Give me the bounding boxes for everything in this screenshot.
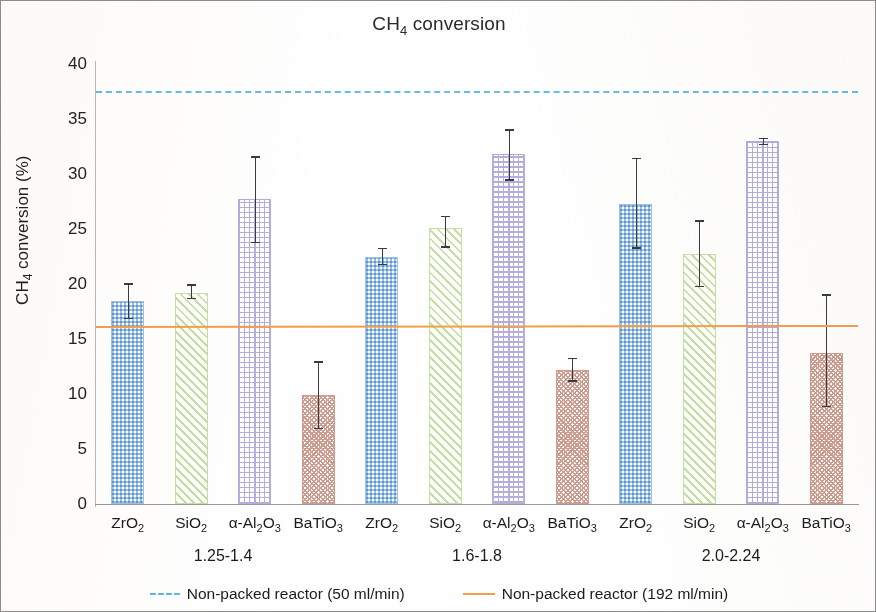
error-cap-top (822, 294, 831, 296)
legend-item-1[interactable]: Non-packed reactor (50 ml/min) (150, 585, 405, 603)
legend-label: Non-packed reactor (192 ml/min) (502, 585, 729, 603)
x-tick-label-SiO2-g3: SiO2 (668, 509, 732, 539)
error-cap-top (505, 129, 514, 131)
error-cap-top (187, 284, 196, 286)
chart-title: CH4 conversion (1, 13, 876, 38)
group-label-2: 1.6-1.8 (350, 544, 604, 570)
x-tick-label-ZrO2-g3: ZrO2 (604, 509, 668, 539)
y-tick-15: 15 (43, 329, 87, 349)
bar-SiO2-g2 (429, 228, 462, 504)
bar-a-Al2O3-g1 (238, 199, 271, 504)
error-cap-bottom (124, 318, 133, 320)
x-tick-label-BaTiO3-g2: BaTiO3 (541, 509, 605, 539)
error-cap-bottom (632, 247, 641, 249)
y-tick-35: 35 (43, 109, 87, 129)
error-bar-ZrO2-g1 (128, 283, 129, 319)
error-bar-a-Al2O3-g1 (255, 156, 256, 243)
y-tick-0: 0 (43, 494, 87, 514)
error-cap-top (124, 283, 133, 285)
error-cap-bottom (378, 264, 387, 266)
error-cap-top (695, 220, 704, 222)
error-bar-ZrO2-g2 (382, 248, 383, 266)
error-bar-ZrO2-g3 (636, 158, 637, 249)
y-tick-20: 20 (43, 274, 87, 294)
bar-SiO2-g1 (175, 293, 208, 504)
x-tick-label-a-Al2O3-g2: α-Al2O3 (477, 509, 541, 539)
y-tick-25: 25 (43, 219, 87, 239)
y-tick-5: 5 (43, 439, 87, 459)
legend-item-2[interactable]: Non-packed reactor (192 ml/min) (463, 585, 729, 603)
legend-swatch-dashed-icon (150, 593, 180, 595)
error-bar-BaTiO3-g1 (318, 361, 319, 429)
error-cap-top (568, 358, 577, 360)
error-cap-bottom (314, 428, 323, 430)
legend-swatch-solid-icon (463, 593, 495, 596)
error-bar-SiO2-g1 (191, 284, 192, 299)
error-cap-top (251, 156, 260, 158)
chart-legend: Non-packed reactor (50 ml/min)Non-packed… (1, 579, 876, 609)
error-cap-bottom (568, 380, 577, 382)
error-cap-bottom (822, 406, 831, 408)
x-tick-label-SiO2-g1: SiO2 (160, 509, 224, 539)
x-tick-label-a-Al2O3-g1: α-Al2O3 (223, 509, 287, 539)
error-cap-bottom (187, 298, 196, 300)
y-tick-40: 40 (43, 54, 87, 74)
error-cap-bottom (759, 144, 768, 146)
bar-SiO2-g3 (683, 254, 716, 504)
error-cap-top (314, 361, 323, 363)
group-label-1: 1.25-1.4 (96, 544, 350, 570)
x-axis-group-labels: 1.25-1.41.6-1.82.0-2.24 (96, 544, 858, 570)
y-axis-tick-labels: 4035302520151050 (39, 64, 87, 504)
reference-line-dashed (96, 91, 858, 93)
error-bar-a-Al2O3-g2 (509, 129, 510, 181)
x-tick-label-a-Al2O3-g3: α-Al2O3 (731, 509, 795, 539)
legend-label: Non-packed reactor (50 ml/min) (187, 585, 405, 603)
error-cap-top (441, 216, 450, 218)
x-tick-label-ZrO2-g2: ZrO2 (350, 509, 414, 539)
x-tick-label-BaTiO3-g1: BaTiO3 (287, 509, 351, 539)
bar-ZrO2-g1 (111, 301, 144, 505)
error-bar-SiO2-g3 (699, 220, 700, 287)
bar-a-Al2O3-g3 (746, 141, 779, 504)
error-cap-bottom (441, 246, 450, 248)
error-cap-bottom (251, 242, 260, 244)
x-tick-label-BaTiO3-g3: BaTiO3 (795, 509, 859, 539)
chart-figure: CH4 conversion 4035302520151050 CH4 conv… (0, 0, 876, 612)
error-bar-BaTiO3-g3 (826, 294, 827, 407)
group-label-3: 2.0-2.24 (604, 544, 858, 570)
error-cap-bottom (695, 286, 704, 288)
error-cap-top (632, 158, 641, 160)
bar-ZrO2-g2 (365, 257, 398, 505)
reference-line-solid (96, 325, 858, 328)
y-tick-30: 30 (43, 164, 87, 184)
error-bar-a-Al2O3-g3 (763, 138, 764, 146)
y-tick-10: 10 (43, 384, 87, 404)
x-tick-label-SiO2-g2: SiO2 (414, 509, 478, 539)
error-bar-SiO2-g2 (445, 216, 446, 248)
plot-area (96, 64, 858, 504)
x-axis-category-labels: ZrO2SiO2α-Al2O3BaTiO3ZrO2SiO2α-Al2O3BaTi… (96, 509, 858, 539)
error-cap-bottom (505, 179, 514, 181)
error-bar-BaTiO3-g2 (572, 358, 573, 382)
x-tick-label-ZrO2-g1: ZrO2 (96, 509, 160, 539)
error-cap-top (378, 248, 387, 250)
bar-a-Al2O3-g2 (492, 154, 525, 504)
bar-BaTiO3-g2 (556, 370, 589, 504)
x-axis-line (95, 504, 859, 505)
error-cap-top (759, 138, 768, 140)
y-axis-title: CH4 conversion (%) (13, 50, 35, 410)
